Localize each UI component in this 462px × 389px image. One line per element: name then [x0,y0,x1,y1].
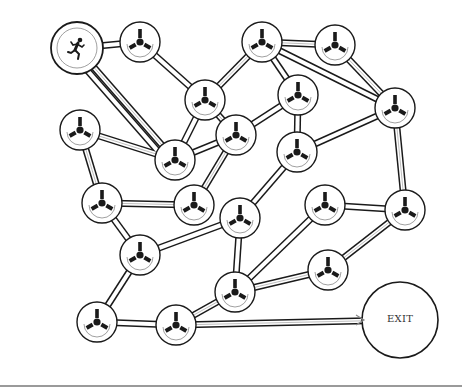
junction-node-n3[interactable] [242,22,282,62]
junction-node-n10[interactable] [277,132,317,172]
junction-node-n11[interactable] [82,183,122,223]
junction-node-n12[interactable] [174,185,214,225]
junction-node-n1[interactable] [120,22,160,62]
start-node[interactable] [51,22,103,74]
junction-node-n16[interactable] [120,235,160,275]
junction-node-n5[interactable] [278,75,318,115]
junction-node-n13[interactable] [220,198,260,238]
exit-label: EXIT [387,313,413,324]
maze-diagram [0,0,462,389]
junction-node-n6[interactable] [375,88,415,128]
junction-node-n18[interactable] [215,272,255,312]
node-layer [51,22,438,358]
junction-node-n9[interactable] [216,115,256,155]
junction-node-n17[interactable] [308,250,348,290]
junction-node-n8[interactable] [155,140,195,180]
junction-node-n2[interactable] [185,80,225,120]
junction-node-n20[interactable] [156,305,196,345]
junction-node-n15[interactable] [385,190,425,230]
bottom-divider [0,385,462,387]
junction-node-n19[interactable] [77,302,117,342]
junction-node-n4[interactable] [315,25,355,65]
junction-node-n14[interactable] [305,185,345,225]
junction-node-n7[interactable] [60,110,100,150]
